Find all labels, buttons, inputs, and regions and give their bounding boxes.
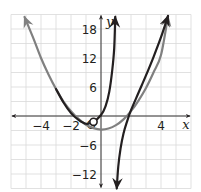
y-tick-label: −6 <box>79 139 97 153</box>
curves <box>25 16 169 189</box>
x-tick-label: −4 <box>32 119 50 133</box>
open-circle-point <box>90 118 97 125</box>
y-axis-label: y <box>105 14 114 29</box>
x-tick-label: −2 <box>62 119 80 133</box>
y-tick-label: 6 <box>89 81 97 95</box>
x-axis-label: x <box>182 117 190 132</box>
x-tick-label: 4 <box>157 119 165 133</box>
annotations <box>90 118 97 125</box>
y-tick-label: 18 <box>82 23 97 37</box>
y-tick-label: −12 <box>72 168 97 182</box>
function-graph: −4−2418126−6−12xyO <box>0 0 201 192</box>
y-tick-label: 12 <box>82 52 97 66</box>
black-right-branch-curve <box>117 16 168 189</box>
